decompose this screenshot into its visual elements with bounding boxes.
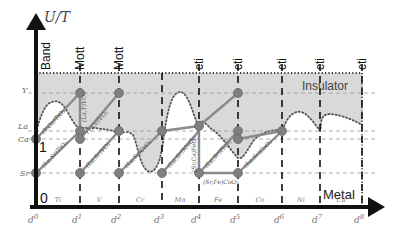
level-label-ca: Ca bbox=[18, 135, 29, 144]
x-axis-arrowhead bbox=[368, 197, 385, 217]
element-ni: Ni bbox=[296, 196, 305, 204]
tick-label-zero: 0 bbox=[40, 190, 48, 206]
element-co: Co bbox=[256, 196, 265, 204]
element-cu: Cu bbox=[336, 196, 345, 204]
y-level-labels: Y La Ca Sr bbox=[17, 86, 30, 178]
tick-label-one: 1 bbox=[39, 139, 47, 155]
label-sr-ca-feo3: (Sr,Ca)FeO₃ bbox=[190, 136, 197, 172]
tick-d5: d5 bbox=[230, 213, 241, 225]
tick-d4: d4 bbox=[191, 213, 201, 225]
regime-labels: Band Mott Mott cti cti cti cti cti bbox=[39, 42, 369, 70]
level-label-sr: Sr bbox=[20, 169, 30, 178]
element-cr: Cr bbox=[136, 196, 145, 204]
tick-d3: d3 bbox=[154, 213, 165, 225]
tick-d2: d2 bbox=[111, 213, 122, 225]
regime-band: Band bbox=[39, 42, 53, 70]
tick-d8: d8 bbox=[354, 213, 365, 225]
element-fe: Fe bbox=[213, 196, 222, 204]
element-v: V bbox=[97, 196, 103, 204]
diagram-canvas: (Y,Ca)TiO₃ (La,Sr)TiO₃ (La,Y)VO₃ (Y,Ca)V… bbox=[0, 0, 403, 235]
level-label-y: Y bbox=[22, 86, 28, 95]
label-la-y-vo3: (La,Y)VO₃ bbox=[80, 92, 87, 122]
regime-mott-1: Mott bbox=[73, 46, 87, 70]
regime-cti-8: cti bbox=[355, 58, 369, 70]
regime-cti-6: cti bbox=[275, 58, 289, 70]
element-mn: Mn bbox=[174, 196, 186, 204]
insulator-label: Insulator bbox=[302, 79, 348, 93]
element-ti: Ti bbox=[55, 196, 61, 204]
level-label-la: La bbox=[17, 122, 28, 131]
tick-d0: d0 bbox=[28, 213, 39, 225]
y-axis-label: U/T bbox=[44, 9, 72, 25]
regime-cti-5: cti bbox=[231, 58, 245, 70]
label-la-sr-vo3: (La,Sr)VO₃ bbox=[84, 140, 112, 169]
regime-cti-7: cti bbox=[313, 58, 327, 70]
regime-cti-4: cti bbox=[192, 58, 206, 70]
tick-d1: d1 bbox=[72, 213, 82, 225]
y-axis-arrowhead bbox=[26, 13, 46, 30]
label-la-sr-feo3: (La,Sr)FeO₃ bbox=[203, 138, 233, 169]
regime-mott-2: Mott bbox=[112, 46, 126, 70]
label-sr-fe-coo3: (Sr,Fe)CoO₃ bbox=[203, 178, 239, 185]
tick-d7: d7 bbox=[312, 213, 323, 225]
x-tick-labels: d0 d1 d2 d3 d4 d5 d6 d7 d8 bbox=[28, 213, 365, 225]
tick-d6: d6 bbox=[274, 213, 285, 225]
element-labels: Ti V Cr Mn Fe Co Ni Cu bbox=[55, 196, 346, 204]
phase-diagram: (Y,Ca)TiO₃ (La,Sr)TiO₃ (La,Y)VO₃ (Y,Ca)V… bbox=[0, 0, 403, 235]
